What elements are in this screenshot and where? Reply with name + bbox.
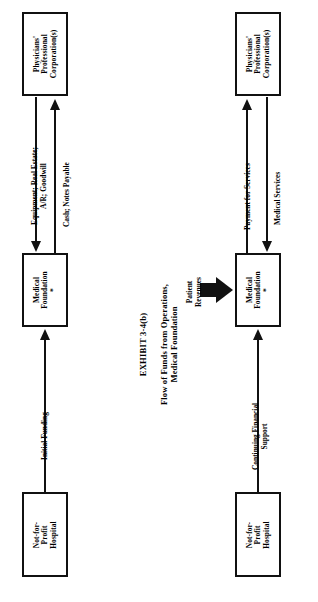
node-hospital-left: Not-for-Profit Hospital: [22, 492, 68, 577]
flow-continuing-support-line2: Support: [261, 403, 270, 470]
node-foundation-right-label: Medical Foundation *: [237, 255, 279, 325]
node-hospital-right-line1: Not-for-Profit: [246, 521, 263, 549]
flow-payment-for-services-label: Payment for Services: [244, 163, 253, 230]
flow-initial-funding-line1: Initial Funding: [41, 412, 50, 460]
node-foundation-left-label: Medical Foundation *: [24, 255, 66, 325]
exhibit-diagram: Physicians' Professional Corporation(s) …: [0, 0, 318, 602]
node-foundation-left-line2: Foundation *: [41, 271, 58, 309]
node-ppc-left-label: Physicians' Professional Corporation(s): [24, 14, 66, 94]
node-ppc-right-line3: Corporation(s): [262, 30, 270, 79]
node-hospital-left-line2: Hospital: [49, 521, 57, 549]
node-foundation-right: Medical Foundation *: [235, 253, 281, 327]
exhibit-title: EXHIBIT 3-4(b) Flow of Funds from Operat…: [138, 284, 179, 405]
node-ppc-right: Physicians' Professional Corporation(s): [235, 12, 281, 96]
flow-medical-services-line1: Medical Services: [274, 172, 283, 225]
flow-consideration-label: Cash; Notes Payable: [63, 162, 72, 227]
node-hospital-right-line2: Hospital: [262, 521, 270, 549]
flow-continuing-support-label: Continuing Financial Support: [252, 403, 269, 470]
exhibit-title-line1: Flow of Funds from Operations,: [159, 284, 169, 405]
flow-assets-transfer-line2: A/R; Goodwill: [40, 147, 49, 225]
flow-patient-revenues-line2: Revenues: [195, 277, 204, 307]
exhibit-number: EXHIBIT 3-4(b): [138, 284, 148, 405]
node-hospital-right: Not-for-Profit Hospital: [235, 492, 281, 577]
flow-medical-services-label: Medical Services: [274, 172, 283, 225]
node-ppc-left-line3: Corporation(s): [49, 30, 57, 79]
exhibit-title-line2: Medical Foundation: [169, 284, 179, 405]
node-hospital-left-line1: Not-for-Profit: [33, 521, 50, 549]
node-foundation-left: Medical Foundation *: [22, 253, 68, 327]
node-ppc-right-label: Physicians' Professional Corporation(s): [237, 14, 279, 94]
node-foundation-right-line2: Foundation *: [254, 271, 271, 309]
node-ppc-left: Physicians' Professional Corporation(s): [22, 12, 68, 96]
node-hospital-left-label: Not-for-Profit Hospital: [24, 494, 66, 575]
flow-assets-transfer-label: Equipment; Real Estate; A/R; Goodwill: [31, 147, 48, 225]
flow-payment-for-services-line1: Payment for Services: [244, 163, 253, 230]
flow-initial-funding-label: Initial Funding: [41, 412, 50, 460]
flow-consideration-line1: Cash; Notes Payable: [63, 162, 72, 227]
flow-patient-revenues-label: Patient Revenues: [186, 277, 203, 307]
node-hospital-right-label: Not-for-Profit Hospital: [237, 494, 279, 575]
